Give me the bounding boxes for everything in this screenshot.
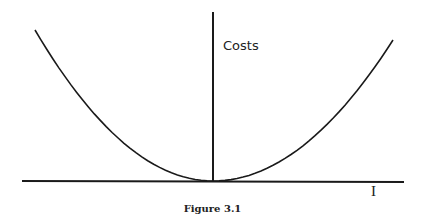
y-axis-label: Costs — [223, 38, 259, 53]
x-axis-label: I — [371, 183, 376, 200]
cost-curve-chart — [0, 0, 425, 221]
figure-caption: Figure 3.1 — [0, 203, 425, 214]
